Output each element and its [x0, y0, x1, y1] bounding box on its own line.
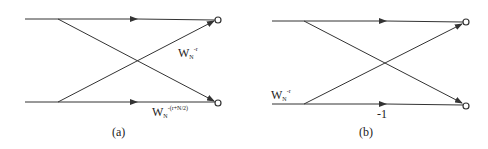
- twiddle-sup: -r: [194, 46, 198, 52]
- butterfly-a: [25, 17, 221, 106]
- b-cross-down: [304, 21, 462, 103]
- twiddle-sub: N: [163, 113, 167, 119]
- a-caption: (a): [112, 125, 125, 140]
- a-lower-twiddle-label: WN-(r+N/2): [152, 105, 188, 120]
- b-input-twiddle-label: WN-r: [271, 88, 291, 103]
- twiddle-base: W: [178, 46, 189, 60]
- twiddle-sub: N: [189, 54, 193, 60]
- b-caption: (b): [359, 125, 373, 140]
- b-node-bottom: [463, 103, 469, 109]
- twiddle-sup: -(r+N/2): [168, 105, 188, 111]
- twiddle-sup: -r: [287, 88, 291, 94]
- twiddle-base: W: [271, 88, 282, 102]
- a-node-top: [215, 17, 221, 23]
- b-node-top: [463, 19, 469, 25]
- b-top-branch-tail: [386, 21, 463, 22]
- a-node-bottom: [215, 100, 221, 106]
- a-upper-twiddle-label: WN-r: [178, 46, 198, 61]
- b-minus-one-label: -1: [377, 107, 387, 122]
- butterfly-b: [272, 19, 469, 109]
- twiddle-sub: N: [282, 96, 286, 102]
- butterfly-diagrams: [0, 0, 488, 149]
- a-top-branch-tail: [137, 19, 215, 20]
- twiddle-base: W: [152, 105, 163, 119]
- b-bottom-branch-tail: [386, 104, 463, 105]
- a-cross-up: [58, 21, 214, 102]
- b-cross-up: [304, 24, 462, 104]
